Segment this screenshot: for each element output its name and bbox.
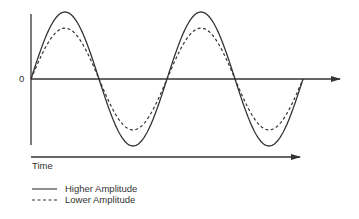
legend-label-lower: Lower Amplitude [65, 195, 135, 205]
zero-label: 0 [19, 74, 24, 84]
time-axis-label: Time [32, 161, 53, 171]
legend-label-higher: Higher Amplitude [65, 184, 137, 194]
sine-wave-diagram [0, 0, 359, 219]
